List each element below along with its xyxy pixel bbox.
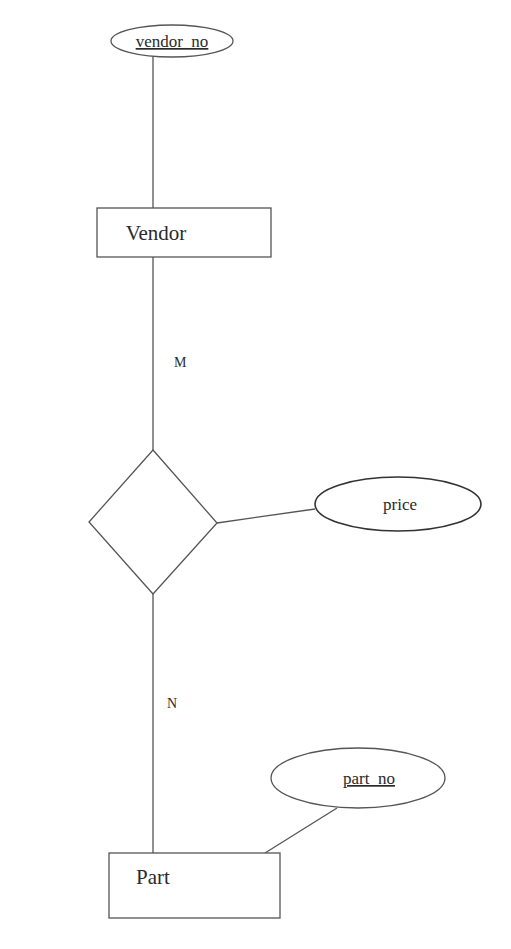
attribute-label-vendor-no: vendor_no bbox=[136, 32, 209, 51]
relationship-supplies[interactable] bbox=[89, 450, 217, 594]
attribute-label-part-no: part_no bbox=[343, 769, 395, 788]
entity-box bbox=[109, 853, 280, 918]
connector-part-no-to-part bbox=[265, 808, 337, 853]
entity-label-part: Part bbox=[136, 865, 170, 889]
er-diagram-canvas: vendor_no Vendor M price N part_no Part bbox=[0, 0, 511, 949]
attribute-label-price: price bbox=[383, 495, 417, 514]
entity-label-vendor: Vendor bbox=[126, 221, 187, 245]
relationship-diamond bbox=[89, 450, 217, 594]
attribute-vendor-no[interactable]: vendor_no bbox=[111, 25, 233, 57]
entity-vendor[interactable]: Vendor bbox=[97, 208, 271, 257]
attribute-price[interactable]: price bbox=[315, 477, 481, 531]
cardinality-label-m: M bbox=[174, 355, 187, 370]
attribute-part-no[interactable]: part_no bbox=[271, 748, 445, 808]
cardinality-label-n: N bbox=[167, 696, 177, 711]
entity-part[interactable]: Part bbox=[109, 853, 280, 918]
connector-relationship-to-price bbox=[217, 509, 315, 523]
